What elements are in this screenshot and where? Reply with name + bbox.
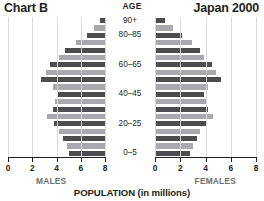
- axis-tick-label: 8: [246, 163, 264, 173]
- bar: [155, 62, 212, 67]
- bar: [87, 33, 105, 38]
- gridline: [32, 17, 33, 157]
- axis-tick-label: 4: [196, 163, 216, 173]
- population-pyramid-chart: Chart B Japan 2000 AGE 0–520–2540–4560–6…: [0, 0, 264, 201]
- females-panel: [155, 17, 256, 157]
- axis-tick-label: 6: [71, 163, 91, 173]
- bar: [53, 84, 105, 89]
- bar: [155, 33, 182, 38]
- gridline: [231, 17, 232, 157]
- bar: [59, 55, 105, 60]
- age-label-column: 0–520–2540–4560–6580–8590+: [106, 17, 154, 157]
- bar: [155, 107, 208, 112]
- bar: [54, 121, 105, 126]
- bar: [155, 84, 208, 89]
- bar: [155, 18, 165, 23]
- bar: [155, 77, 221, 82]
- axis-tick: [180, 157, 181, 162]
- gridline: [206, 17, 207, 157]
- bar: [67, 143, 105, 148]
- x-axis-title: POPULATION (in millions): [0, 187, 264, 198]
- bar: [155, 70, 216, 75]
- gridline: [180, 17, 181, 157]
- axis-tick: [57, 157, 58, 162]
- age-label: 80–85: [106, 30, 154, 39]
- males-panel: [8, 17, 105, 157]
- age-label: 60–65: [106, 60, 154, 69]
- bar: [155, 136, 197, 141]
- gridline: [256, 17, 257, 157]
- axis-tick-label: 4: [47, 163, 67, 173]
- gridline: [57, 17, 58, 157]
- bar: [155, 129, 200, 134]
- axis-tick: [81, 157, 82, 162]
- age-axis-header: AGE: [0, 1, 264, 11]
- bar: [50, 62, 105, 67]
- axis-tick-label: 2: [22, 163, 42, 173]
- gridline: [155, 17, 156, 157]
- bar: [155, 143, 193, 148]
- age-label: 90+: [106, 16, 154, 25]
- males-axis-label: MALES: [36, 176, 66, 186]
- bar: [155, 25, 173, 30]
- age-label: 0–5: [106, 148, 154, 157]
- bar: [65, 48, 105, 53]
- bar: [59, 129, 105, 134]
- axis-tick: [8, 157, 9, 162]
- gridline: [81, 17, 82, 157]
- axis-tick-label: 0: [145, 163, 165, 173]
- axis-tick-label: 6: [221, 163, 241, 173]
- bar: [155, 151, 190, 156]
- axis-tick-label: 2: [170, 163, 190, 173]
- bar: [63, 136, 105, 141]
- bar: [69, 151, 105, 156]
- bar: [155, 48, 200, 53]
- females-axis-label: FEMALES: [195, 176, 236, 186]
- bar: [155, 114, 213, 119]
- axis-tick: [231, 157, 232, 162]
- axis-tick: [155, 157, 156, 162]
- bar: [155, 40, 192, 45]
- axis-tick: [206, 157, 207, 162]
- bar: [53, 107, 105, 112]
- gridline: [8, 17, 9, 157]
- axis-tick-label: 0: [0, 163, 18, 173]
- bar: [46, 70, 105, 75]
- axis-tick: [256, 157, 257, 162]
- age-label: 40–45: [106, 89, 154, 98]
- axis-tick: [105, 157, 106, 162]
- bar: [94, 25, 105, 30]
- axis-tick-label: 8: [95, 163, 115, 173]
- age-label: 20–25: [106, 119, 154, 128]
- bar: [41, 77, 105, 82]
- axis-tick: [32, 157, 33, 162]
